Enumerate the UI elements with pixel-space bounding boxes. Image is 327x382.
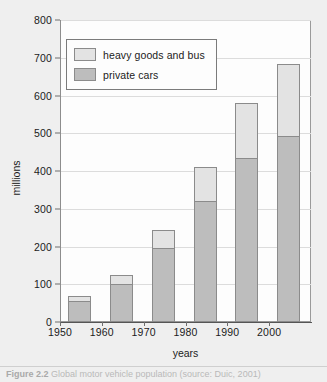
y-axis-tick-label: 800 xyxy=(8,14,52,26)
chart-legend: heavy goods and bus private cars xyxy=(66,39,217,90)
bar-segment-private-cars-1990 xyxy=(235,158,258,322)
y-axis-tick-label: 600 xyxy=(8,90,52,102)
figure-caption-label: Figure 2.2 xyxy=(6,369,49,379)
bar-segment-private-cars-1950 xyxy=(68,301,91,322)
figure-caption: Figure 2.2 Global motor vehicle populati… xyxy=(6,369,321,379)
gridline xyxy=(60,247,311,248)
bar-segment-private-cars-2000 xyxy=(277,136,300,322)
y-axis-tick-mark xyxy=(55,208,60,209)
x-axis-tick-label: 1980 xyxy=(163,326,209,338)
bar-1970 xyxy=(152,230,175,322)
bar-segment-heavy-goods-2000 xyxy=(277,64,300,137)
y-axis-title: millions xyxy=(10,143,22,213)
y-axis-tick-mark xyxy=(55,57,60,58)
gridline xyxy=(60,133,311,134)
x-axis-tick-label: 1970 xyxy=(121,326,167,338)
y-axis-tick-mark xyxy=(55,284,60,285)
x-axis-tick-label: 1960 xyxy=(79,326,125,338)
x-axis-title: years xyxy=(60,347,311,359)
gridline xyxy=(60,209,311,210)
legend-item-private-cars: private cars xyxy=(74,66,209,83)
y-axis-tick-label: 700 xyxy=(8,52,52,64)
bar-segment-heavy-goods-1990 xyxy=(235,103,258,159)
bar-1980 xyxy=(194,167,217,322)
caption-separator xyxy=(0,366,327,367)
gridline xyxy=(60,171,311,172)
legend-label-heavy-goods: heavy goods and bus xyxy=(103,49,205,61)
x-axis-tick-label: 1950 xyxy=(37,326,83,338)
y-axis-tick-label: 500 xyxy=(8,127,52,139)
bar-1990 xyxy=(235,103,258,322)
gridline xyxy=(60,96,311,97)
bar-segment-private-cars-1970 xyxy=(152,248,175,322)
bar-1960 xyxy=(110,275,133,322)
gridline xyxy=(60,20,311,21)
y-axis-tick-label: 100 xyxy=(8,278,52,290)
y-axis-tick-mark xyxy=(55,95,60,96)
legend-item-heavy-goods: heavy goods and bus xyxy=(74,46,209,63)
bar-2000 xyxy=(277,64,300,322)
legend-swatch-private-cars xyxy=(74,68,96,81)
x-axis-tick-label: 2000 xyxy=(246,326,292,338)
legend-label-private-cars: private cars xyxy=(103,69,158,81)
y-axis-tick-mark xyxy=(55,133,60,134)
y-axis-tick-mark xyxy=(55,20,60,21)
bar-segment-private-cars-1980 xyxy=(194,201,217,322)
gridline xyxy=(60,284,311,285)
x-axis-tick-label: 1990 xyxy=(204,326,250,338)
y-axis-tick-label: 200 xyxy=(8,241,52,253)
legend-swatch-heavy-goods xyxy=(74,48,96,61)
bar-segment-heavy-goods-1970 xyxy=(152,230,175,250)
y-axis-tick-mark xyxy=(55,171,60,172)
bar-1950 xyxy=(68,296,91,322)
figure-caption-text: Global motor vehicle population (source:… xyxy=(51,369,261,379)
y-axis-line xyxy=(60,20,61,323)
bar-segment-private-cars-1960 xyxy=(110,284,133,322)
y-axis-tick-mark xyxy=(55,246,60,247)
figure-container: 0100200300400500600700800 19501960197019… xyxy=(0,0,327,382)
bar-segment-heavy-goods-1980 xyxy=(194,167,217,202)
